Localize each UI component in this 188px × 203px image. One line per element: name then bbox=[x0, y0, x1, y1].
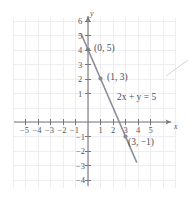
grid-lines bbox=[13, 18, 176, 188]
page-artifact-stroke bbox=[166, 60, 188, 76]
plotted-line bbox=[81, 34, 137, 163]
graph-figure: y x −5 −4 −3 −2 −1 1 2 3 4 5 6 5 4 3 2 1… bbox=[0, 0, 188, 203]
point-0-5 bbox=[86, 47, 90, 51]
coordinate-plane-svg bbox=[0, 0, 188, 203]
y-axis bbox=[85, 16, 91, 186]
point-3-neg1 bbox=[123, 134, 127, 138]
x-axis bbox=[14, 119, 171, 125]
point-1-3 bbox=[98, 76, 102, 80]
